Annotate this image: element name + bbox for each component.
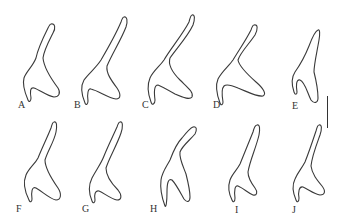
- outline-b: [82, 17, 127, 105]
- outline-d: [217, 25, 265, 105]
- panel-label-b: B: [74, 100, 81, 110]
- panel-label-d: D: [213, 100, 220, 110]
- panel-label-f: F: [16, 204, 22, 214]
- outline-j: [293, 125, 324, 202]
- outline-c: [148, 15, 194, 104]
- specimen-figure: A B C D E F G H I J: [0, 0, 346, 223]
- panel-label-h: H: [150, 204, 157, 214]
- outline-f: [25, 122, 61, 202]
- panel-label-g: G: [82, 204, 89, 214]
- outline-e: [292, 30, 319, 103]
- panel-label-e: E: [292, 101, 298, 111]
- outline-g: [89, 122, 122, 203]
- panel-label-j: J: [292, 205, 296, 215]
- outline-a: [23, 24, 59, 102]
- panel-label-i: I: [235, 205, 238, 215]
- scale-bar: [327, 96, 328, 128]
- panel-label-c: C: [142, 100, 149, 110]
- outline-i: [229, 125, 260, 202]
- panel-label-a: A: [18, 100, 25, 110]
- outline-h: [161, 127, 197, 207]
- outline-drawings: [0, 0, 346, 223]
